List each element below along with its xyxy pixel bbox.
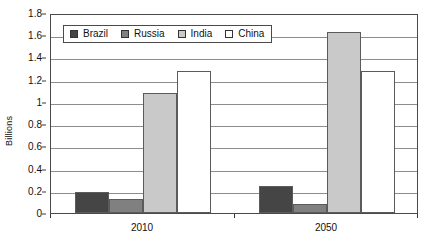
x-axis: 20102050 bbox=[50, 214, 418, 244]
y-axis-tick-mark bbox=[42, 191, 46, 192]
legend-item-india[interactable]: India bbox=[178, 29, 213, 39]
y-axis-tick-labels: 00.20.40.60.811.21.41.61.8 bbox=[16, 14, 46, 214]
bar-china-2010 bbox=[177, 71, 211, 213]
x-axis-tick-mark bbox=[50, 214, 51, 218]
y-axis-tick-label: 1.8 bbox=[28, 9, 42, 19]
bar-series-group bbox=[51, 15, 417, 213]
legend-swatch-icon bbox=[121, 30, 129, 38]
legend-item-russia[interactable]: Russia bbox=[121, 29, 165, 39]
x-axis-tick-mark bbox=[417, 214, 418, 218]
legend-item-china[interactable]: China bbox=[225, 29, 264, 39]
y-axis-tick-mark bbox=[42, 58, 46, 59]
y-axis-tick-mark bbox=[42, 36, 46, 37]
y-axis-tick-label: 1.4 bbox=[28, 53, 42, 63]
y-axis-tick-label: 1.6 bbox=[28, 31, 42, 41]
bar-india-2050 bbox=[327, 32, 361, 213]
y-axis-title: Billions bbox=[2, 96, 16, 166]
bar-russia-2050 bbox=[293, 204, 327, 213]
legend-swatch-icon bbox=[178, 30, 186, 38]
chart-legend: BrazilRussiaIndiaChina bbox=[63, 25, 272, 43]
bar-brazil-2010 bbox=[75, 192, 109, 213]
x-axis-tick-mark bbox=[234, 214, 235, 218]
y-axis-tick-mark bbox=[42, 102, 46, 103]
bar-russia-2010 bbox=[109, 199, 143, 213]
y-axis-tick-mark bbox=[42, 147, 46, 148]
legend-swatch-icon bbox=[225, 30, 233, 38]
bar-india-2010 bbox=[143, 93, 177, 213]
y-axis-tick-mark bbox=[42, 169, 46, 170]
legend-item-brazil[interactable]: Brazil bbox=[70, 29, 108, 39]
legend-label: India bbox=[191, 29, 213, 39]
x-axis-category-label: 2010 bbox=[131, 222, 153, 233]
y-axis-tick-mark bbox=[42, 125, 46, 126]
y-axis-tick-label: 0.2 bbox=[28, 187, 42, 197]
bar-china-2050 bbox=[361, 71, 395, 213]
x-axis-category-label: 2050 bbox=[315, 222, 337, 233]
y-axis-tick-label: 0.8 bbox=[28, 120, 42, 130]
page-edge bbox=[0, 247, 428, 251]
legend-label: Brazil bbox=[83, 29, 108, 39]
y-axis-tick-label: 0.4 bbox=[28, 165, 42, 175]
y-axis-tick-label: 0.6 bbox=[28, 142, 42, 152]
legend-label: Russia bbox=[134, 29, 165, 39]
y-axis-tick-mark bbox=[42, 214, 46, 215]
bar-chart-figure: Billions 00.20.40.60.811.21.41.61.8 Braz… bbox=[0, 0, 428, 251]
legend-swatch-icon bbox=[70, 30, 78, 38]
plot-area: BrazilRussiaIndiaChina bbox=[50, 14, 418, 214]
legend-label: China bbox=[238, 29, 264, 39]
y-axis-tick-mark bbox=[42, 80, 46, 81]
y-axis-tick-mark bbox=[42, 14, 46, 15]
bar-brazil-2050 bbox=[259, 186, 293, 213]
y-axis-tick-label: 1.2 bbox=[28, 76, 42, 86]
